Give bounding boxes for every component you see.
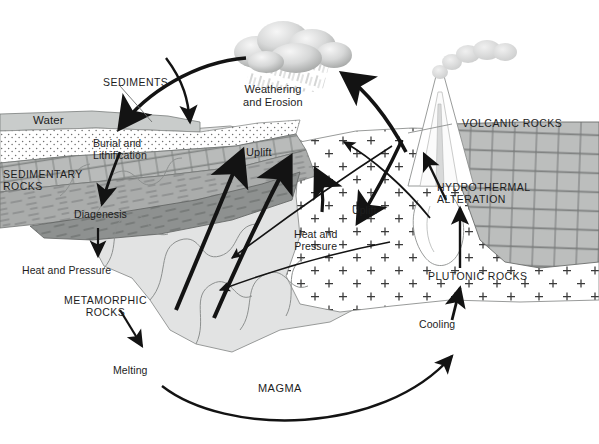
label-heat-and-pressure-center: Heat and Pressure — [294, 228, 337, 252]
label-uplift-left: Uplift — [246, 146, 272, 159]
label-volcanic-rocks: VOLCANIC ROCKS — [462, 117, 562, 129]
label-weathering-and-erosion: Weathering and Erosion — [243, 83, 303, 108]
rock-cycle-diagram: SEDIMENTS Water Burial and Lithification… — [0, 0, 599, 444]
label-magma: MAGMA — [258, 382, 302, 395]
arrow-burial-lithification — [166, 58, 190, 122]
volcano-plume — [432, 40, 517, 79]
label-diagenesis: Diagenesis — [74, 208, 127, 220]
label-heat-and-pressure-left: Heat and Pressure — [22, 264, 111, 276]
label-burial-and-lithification: Burial and Lithification — [93, 137, 147, 161]
arrow-magma-arc — [162, 356, 452, 420]
label-hydrothermal-alteration: HYDROTHERMAL ALTERATION — [437, 181, 531, 205]
label-sedimentary-rocks: SEDIMENTARY ROCKS — [3, 168, 83, 192]
label-cooling: Cooling — [419, 318, 455, 330]
label-metamorphic-rocks: METAMORPHIC ROCKS — [64, 294, 147, 318]
diagram-canvas — [0, 0, 599, 444]
label-melting: Melting — [113, 364, 148, 376]
label-sediments: SEDIMENTS — [103, 76, 168, 88]
label-plutonic-rocks: PLUTONIC ROCKS — [428, 270, 527, 282]
label-water: Water — [33, 114, 64, 127]
label-uplift-right: Uplift — [352, 204, 377, 216]
rain-cloud — [234, 21, 352, 92]
